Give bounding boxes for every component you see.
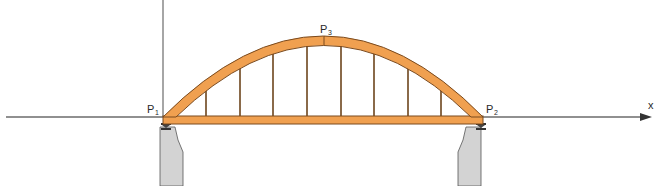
- bridge-arch: [163, 36, 483, 117]
- svg-text:P: P: [486, 103, 493, 115]
- hangers: [206, 46, 441, 117]
- point-label-p2: P 2: [486, 103, 498, 116]
- left-pier: [160, 127, 183, 186]
- point-label-p3: P 3: [320, 23, 332, 36]
- x-axis-label: x: [648, 99, 654, 111]
- right-pier: [458, 127, 481, 186]
- svg-text:2: 2: [494, 109, 498, 116]
- svg-text:1: 1: [155, 109, 159, 116]
- x-axis-arrow-icon: [640, 113, 652, 121]
- svg-text:P: P: [320, 23, 327, 35]
- svg-text:3: 3: [328, 29, 332, 36]
- bridge-deck: [163, 116, 483, 124]
- svg-text:P: P: [147, 103, 154, 115]
- point-label-p1: P 1: [147, 103, 159, 116]
- arch-bridge-diagram: x P 1 P 2 P 3: [0, 0, 660, 186]
